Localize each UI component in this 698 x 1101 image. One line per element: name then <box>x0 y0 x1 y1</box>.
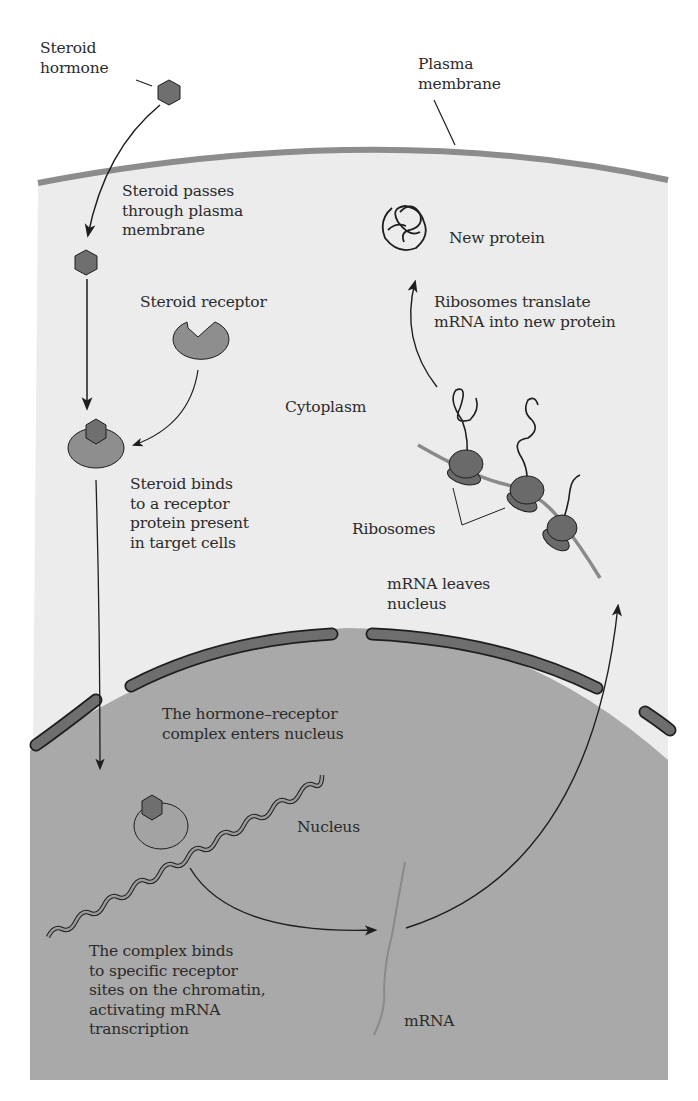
label-steroid-hormone: Steroid hormone <box>40 39 109 78</box>
label-steroid-receptor: Steroid receptor <box>140 293 267 313</box>
label-ribosomes: Ribosomes <box>352 520 435 540</box>
label-cytoplasm: Cytoplasm <box>285 398 366 418</box>
label-ribosomes-translate: Ribosomes translate mRNA into new protei… <box>434 293 616 332</box>
label-mrna-leaves: mRNA leaves nucleus <box>387 575 490 614</box>
steroid-inside-icon <box>75 250 97 275</box>
diagram-artwork <box>0 0 698 1101</box>
steroid-hormone-icon <box>158 80 180 105</box>
label-complex-enters: The hormone–receptor complex enters nucl… <box>162 705 344 744</box>
label-nucleus: Nucleus <box>297 818 360 838</box>
label-new-protein: New protein <box>449 229 545 249</box>
label-plasma-membrane: Plasma membrane <box>418 55 501 94</box>
label-steroid-passes: Steroid passes through plasma membrane <box>122 182 243 241</box>
label-mrna: mRNA <box>404 1012 454 1032</box>
steroid-hormone-diagram: Steroid hormone Plasma membrane Steroid … <box>0 0 698 1101</box>
label-steroid-binds: Steroid binds to a receptor protein pres… <box>130 475 249 553</box>
plasma-membrane-leader <box>434 100 455 145</box>
label-complex-binds: The complex binds to specific receptor s… <box>89 942 266 1040</box>
steroid-leader <box>136 80 152 86</box>
